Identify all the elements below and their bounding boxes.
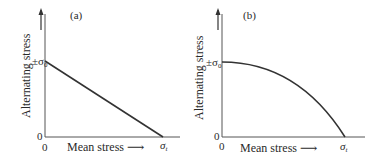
y-tick-sigma0-b: ±σ0	[206, 57, 221, 70]
y-tick-sigma0-a: ±σ0	[32, 56, 47, 69]
x-arrow-icon: ⟶	[300, 141, 317, 155]
x-arrow-icon: ⟶	[127, 140, 144, 154]
x-tick-zero-b: 0	[219, 141, 225, 152]
panel-tag-b: (b)	[243, 9, 256, 21]
chart-panel-b: (b) Alternating stress ±σ0 0 0 Mean stre…	[189, 0, 378, 157]
x-tick-sigmat-b: σt	[340, 141, 347, 154]
x-tick-zero-a: 0	[42, 142, 48, 153]
goodman-line	[45, 61, 163, 137]
x-axis-label-b: Mean stress ⟶	[240, 142, 317, 154]
x-tick-sigmat-a: σt	[160, 140, 167, 153]
y-axis-label-b: Alternating stress	[193, 36, 205, 120]
x-axis-label-a: Mean stress ⟶	[67, 141, 144, 153]
y-axis-arrow-icon	[39, 8, 44, 15]
gerber-curve	[222, 62, 345, 137]
y-axis-arrow-icon	[216, 8, 221, 15]
panel-tag-a: (a)	[70, 9, 82, 21]
y-axis-label-a: Alternating stress	[20, 34, 32, 118]
chart-panel-a: (a) Alternating stress ±σ0 0 0 Mean stre…	[0, 0, 189, 157]
